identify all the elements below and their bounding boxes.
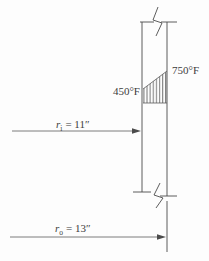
temperature-gradient-region [143,71,167,103]
outer-radius-arrow [10,234,166,239]
outer-temperature-label: 750°F [172,64,199,76]
inner-temperature-label: 450°F [113,85,140,97]
bottom-break-symbol [133,183,177,208]
top-break-symbol [140,7,177,36]
cylinder-wall-temperature-diagram: 450°F 750°F ri= 11″ ro= 13″ [0,0,209,261]
outer-radius-label: ro= 13″ [55,222,91,237]
